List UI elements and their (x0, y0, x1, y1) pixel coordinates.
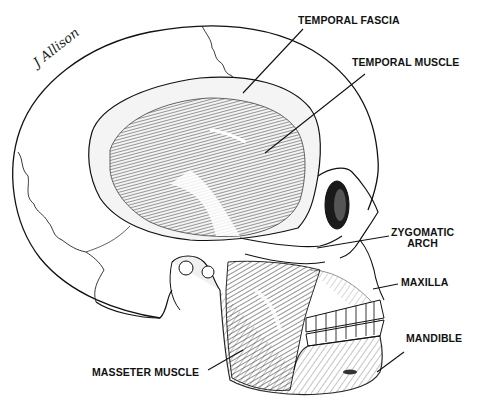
leader-maxilla (373, 284, 398, 289)
temporomandibular-joint (170, 256, 220, 310)
leader-zygomatic-arch (317, 236, 389, 248)
label-temporal-fascia: TEMPORAL FASCIA (298, 15, 400, 26)
leader-temporal-fascia (243, 29, 303, 93)
label-masseter-muscle: MASSETER MUSCLE (92, 367, 199, 378)
label-temporal-muscle: TEMPORAL MUSCLE (352, 57, 459, 68)
anatomy-diagram: J Allison TEMPORAL FASCIA TEMPORAL MUSCL… (0, 0, 482, 409)
temporal-fascia-region (89, 77, 321, 240)
label-maxilla: MAXILLA (401, 277, 448, 288)
label-mandible: MANDIBLE (406, 333, 462, 344)
label-zygomatic-arch-line2: ARCH (391, 238, 454, 249)
label-zygomatic-arch: ZYGOMATIC ARCH (391, 227, 454, 249)
